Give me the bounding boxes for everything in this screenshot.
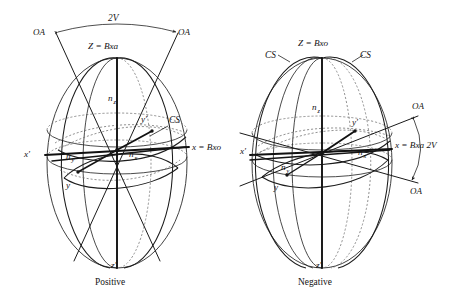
label-oa-upper-negative: OA	[412, 101, 424, 111]
circular-section-great-circle-1-negative	[255, 57, 322, 268]
label-z-bxo: Z = Bxo	[298, 38, 329, 48]
label-x-prime-positive: x'	[23, 149, 31, 159]
label-n-x-subscript-negative: x	[363, 152, 367, 159]
y-prime-node-dot-negative	[353, 129, 356, 132]
label-x-bxo: x = Bxo	[191, 142, 222, 152]
label-y-prime-positive: y'	[140, 114, 148, 124]
label-n-x-positive: n	[129, 149, 134, 159]
label-x-bxa-2v: x = Bxa 2V	[394, 140, 438, 150]
axis-y-prime-vector	[117, 131, 152, 150]
circular-section-great-circle-2	[117, 58, 173, 268]
circular-section-great-circle-2-negative	[322, 57, 389, 268]
label-n-y-positive: n	[66, 151, 71, 161]
center-node-dot-negative	[320, 151, 324, 155]
label-n-y-subscript-negative: y	[286, 167, 290, 174]
figure-container: OA OA 2V Z = Bxa n z n y n x y' CS x = B…	[0, 0, 474, 297]
circular-section-great-circle-1	[61, 58, 117, 268]
cs-left-leader-negative	[278, 55, 290, 62]
y-node-dot-negative	[285, 173, 288, 176]
center-node-dot	[115, 148, 119, 152]
y-node-dot	[76, 170, 79, 173]
label-n-z-negative: n	[312, 102, 317, 112]
label-oa-left-positive: OA	[33, 27, 45, 37]
caption-positive: Positive	[95, 277, 125, 287]
angle-2v-arc	[58, 24, 176, 32]
label-oa-lower-negative: OA	[410, 186, 422, 196]
angle-2v-arc-negative	[412, 120, 421, 180]
label-2v-positive: 2V	[108, 13, 120, 23]
label-n-z-positive: n	[108, 93, 113, 103]
label-n-z-subscript-negative: z	[317, 107, 321, 114]
label-cs-left-negative: CS	[265, 50, 276, 60]
label-n-x-subscript-positive: x	[134, 154, 138, 161]
label-z-bxa: Z = Bxa	[88, 41, 119, 51]
label-n-x-negative: n	[358, 147, 363, 157]
panel-positive: OA OA 2V Z = Bxa n z n y n x y' CS x = B…	[23, 13, 222, 287]
indicatrix-diagram-svg: OA OA 2V Z = Bxa n z n y n x y' CS x = B…	[0, 0, 474, 297]
vertical-great-circle-left	[83, 58, 117, 268]
label-n-z-subscript-positive: z	[113, 98, 117, 105]
label-oa-right-positive: OA	[178, 27, 190, 37]
label-n-y-negative: n	[281, 162, 286, 172]
label-cs-right-negative: CS	[360, 50, 371, 60]
label-n-y-subscript-positive: y	[71, 156, 75, 163]
optic-trace-lower-front	[64, 168, 178, 189]
label-x-prime-negative: x'	[239, 146, 247, 156]
caption-negative: Negative	[298, 277, 332, 287]
panel-negative: Z = Bxo CS CS n z n y n x y' OA OA x = B…	[239, 38, 438, 287]
y-prime-node-dot	[150, 129, 153, 132]
label-cs-positive: CS	[169, 115, 180, 125]
label-z-prime-negative: z'	[315, 260, 323, 270]
label-y-prime-negative: y'	[351, 117, 359, 127]
vertical-great-circle-right	[117, 58, 151, 268]
label-z-prime-positive: z'	[110, 260, 118, 270]
